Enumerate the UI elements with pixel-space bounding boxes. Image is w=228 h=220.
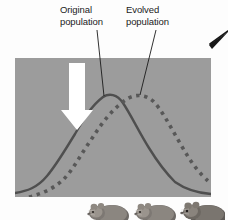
white-down-arrow (61, 63, 93, 130)
curve-evolved-population (29, 95, 211, 197)
directional-selection-figure: Original population Evolved population (0, 0, 228, 220)
curve-original-population (15, 95, 211, 194)
plot-panel (15, 58, 211, 197)
mouse-specimen-3 (179, 198, 225, 220)
label-evolved-population: Evolved population (126, 4, 169, 27)
mouse-specimen-1 (85, 198, 131, 220)
label-original-population: Original population (60, 4, 103, 27)
distribution-curves-svg (15, 58, 211, 197)
mouse-specimen-row (85, 198, 228, 220)
black-pointer-arrow (209, 31, 228, 49)
mouse-specimen-2 (132, 198, 178, 220)
